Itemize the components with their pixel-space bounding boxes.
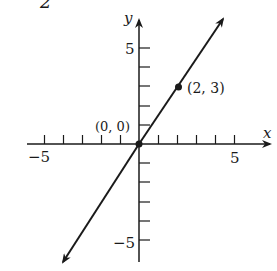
x-axis-label: x bbox=[263, 124, 272, 142]
x-tick-label-neg5: −5 bbox=[28, 148, 50, 166]
figure-label: 2 bbox=[39, 0, 51, 12]
point-2-3 bbox=[175, 84, 182, 91]
x-tick-label-5: 5 bbox=[230, 149, 240, 167]
y-axis-label: y bbox=[123, 9, 133, 27]
point-2-3-label: (2, 3) bbox=[187, 80, 225, 96]
point-origin bbox=[136, 141, 143, 148]
y-tick-label-5: 5 bbox=[125, 40, 135, 58]
coordinate-plane: 2 y x 5 −5 −5 5 (0, 0) (2 bbox=[0, 0, 277, 271]
y-tick-label-neg5: −5 bbox=[113, 234, 135, 252]
origin-point-label: (0, 0) bbox=[95, 119, 130, 134]
